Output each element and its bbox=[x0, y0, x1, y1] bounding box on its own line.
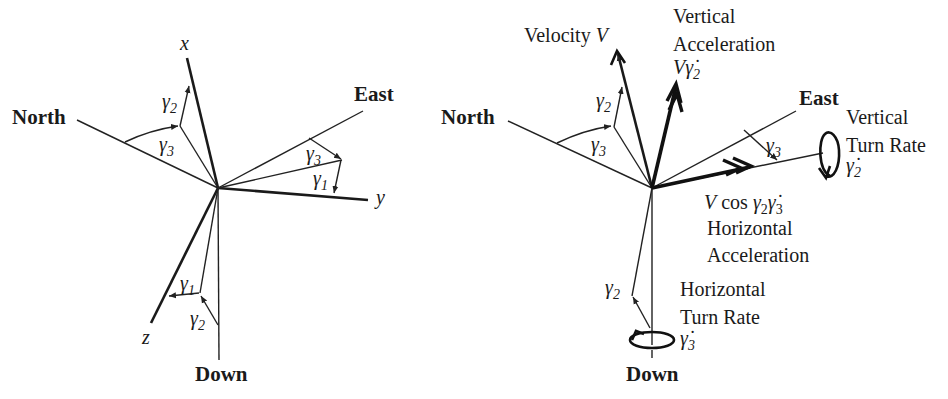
horizontal-turn-rate-line2: Turn Rate bbox=[680, 306, 760, 328]
gamma3-right-label: γ3 bbox=[306, 142, 321, 168]
east-axis-line bbox=[218, 111, 363, 188]
north-label: North bbox=[12, 105, 66, 129]
vertical-turn-rate-line1: Vertical bbox=[846, 106, 909, 128]
down-axis-line bbox=[218, 188, 219, 360]
gamma3-arc bbox=[125, 126, 178, 142]
z-axis-label: z bbox=[141, 326, 150, 348]
gamma2-bottom-label: γ2 bbox=[190, 307, 205, 333]
x-axis-label: x bbox=[179, 32, 189, 54]
right-frame-diagram: North East Down Velocity V Vertical Acce… bbox=[441, 5, 926, 386]
x-body-axis bbox=[187, 58, 218, 188]
gamma3-right-label-right: γ3 bbox=[766, 134, 781, 160]
east-label-right: East bbox=[799, 86, 839, 110]
gamma3-arc-right bbox=[557, 126, 611, 143]
horizontal-accel-line1: Horizontal bbox=[707, 217, 793, 239]
down-label-right: Down bbox=[626, 362, 679, 386]
horizontal-turn-rate-symbol: γ̇3 bbox=[680, 327, 695, 353]
horizontal-accel-formula: V cos γ2γ̇3 bbox=[704, 191, 783, 217]
east-label: East bbox=[354, 82, 394, 106]
y-body-axis bbox=[218, 188, 368, 200]
gamma3-left-label: γ3 bbox=[159, 133, 174, 159]
vertical-accel-line2: Acceleration bbox=[673, 33, 775, 55]
velocity-vector bbox=[618, 54, 652, 188]
horizontal-turn-rate-line1: Horizontal bbox=[680, 278, 766, 300]
left-frame-diagram: North East Down x y z γ2 γ3 γ3 γ1 γ1 γ2 bbox=[12, 32, 394, 386]
gamma2-top-label: γ2 bbox=[162, 90, 177, 116]
gamma2-bottom-label-right: γ2 bbox=[605, 276, 620, 302]
gamma3-left-label-right: γ3 bbox=[591, 133, 606, 159]
vertical-turn-rate-symbol: γ̇2 bbox=[846, 154, 861, 180]
vertical-turn-rate-line2: Turn Rate bbox=[846, 134, 926, 156]
gamma1-right-label: γ1 bbox=[313, 167, 328, 193]
gamma2-bottom-arc-right bbox=[633, 297, 650, 328]
z-body-axis bbox=[151, 188, 218, 323]
horizontal-accel-line2: Acceleration bbox=[707, 244, 809, 266]
gamma2-arc-right bbox=[614, 87, 622, 127]
gamma2-arc bbox=[180, 86, 189, 126]
gamma2-top-label-right: γ2 bbox=[596, 89, 611, 115]
velocity-label: Velocity V bbox=[524, 24, 611, 47]
down-label: Down bbox=[195, 362, 248, 386]
gamma1-right-arc bbox=[334, 160, 341, 193]
north-label-right: North bbox=[441, 105, 495, 129]
vertical-accel-formula: Vγ̇2 bbox=[673, 56, 700, 82]
diagram-svg: North East Down x y z γ2 γ3 γ3 γ1 γ1 γ2 bbox=[0, 0, 948, 399]
y-axis-label: y bbox=[374, 186, 385, 209]
horizontal-turn-rate-arrowhead bbox=[632, 331, 644, 340]
diagram-canvas: North East Down x y z γ2 γ3 γ3 γ1 γ1 γ2 bbox=[0, 0, 948, 399]
down-projection-line-right bbox=[632, 188, 652, 296]
vertical-accel-line1: Vertical bbox=[673, 5, 736, 27]
